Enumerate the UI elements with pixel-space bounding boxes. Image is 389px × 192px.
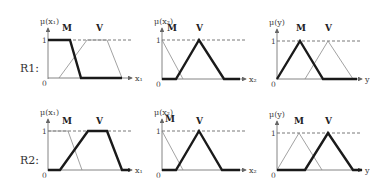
y-axis-label: μ(x₁) <box>40 17 59 26</box>
set-label-m: M <box>296 23 306 33</box>
rule-label: R1: <box>20 62 39 75</box>
membership-curve-v <box>48 131 130 170</box>
x-axis-label: y <box>364 75 370 84</box>
membership-curve-m <box>277 41 357 79</box>
set-label-v: V <box>95 23 104 33</box>
set-label-v: V <box>95 116 104 126</box>
tick-one: 1 <box>42 36 47 45</box>
set-label-m: M <box>62 23 72 33</box>
membership-curve-v <box>59 40 122 78</box>
panels: μ(x₁)x₁10MVμ(x₂)x₂10MVμ(y)y10MVμ(x₁)x₁10… <box>40 17 370 180</box>
set-label-m: M <box>294 116 304 126</box>
tick-zero: 0 <box>271 80 276 89</box>
set-label-v: V <box>324 116 333 126</box>
set-label-v: V <box>324 23 333 33</box>
membership-curve-v <box>162 131 240 170</box>
x-axis-label: y <box>364 166 370 175</box>
tick-zero: 0 <box>42 79 47 88</box>
tick-one: 1 <box>271 37 276 46</box>
x-axis-label: x₂ <box>249 166 257 175</box>
tick-one: 1 <box>156 36 161 45</box>
set-label-v: V <box>195 116 204 126</box>
panel-r1-y: μ(y)y10MV <box>269 18 370 89</box>
tick-one: 1 <box>271 129 276 138</box>
membership-curve-v <box>162 40 240 79</box>
x-axis-label: x₁ <box>135 74 143 83</box>
membership-curve-m <box>48 40 122 78</box>
x-axis-label: x₁ <box>135 166 143 175</box>
tick-one: 1 <box>156 127 161 136</box>
rule-label: R2: <box>20 154 39 167</box>
y-axis-label: μ(x₁) <box>40 108 59 117</box>
tick-zero: 0 <box>156 171 161 180</box>
rule-labels: R1:R2: <box>20 62 39 167</box>
set-label-v: V <box>195 23 204 33</box>
y-axis-label: μ(y) <box>269 110 285 119</box>
tick-one: 1 <box>42 127 47 136</box>
tick-zero: 0 <box>271 171 276 180</box>
panel-r2-x2: μ(x₂)x₂10MV <box>154 108 257 180</box>
panel-r2-y: μ(y)y10MV <box>269 110 370 180</box>
set-label-m: M <box>167 23 177 33</box>
fuzzy-rules-diagram: R1:R2: μ(x₁)x₁10MVμ(x₂)x₂10MVμ(y)y10MVμ(… <box>0 0 389 192</box>
set-label-m: M <box>62 116 72 126</box>
y-axis-label: μ(y) <box>269 18 285 27</box>
tick-zero: 0 <box>42 171 47 180</box>
panel-r2-x1: μ(x₁)x₁10MV <box>40 108 143 180</box>
x-axis-label: x₂ <box>249 75 257 84</box>
panel-r1-x2: μ(x₂)x₂10MV <box>154 17 257 89</box>
panel-r1-x1: μ(x₁)x₁10MV <box>40 17 143 88</box>
membership-function-grid: R1:R2: μ(x₁)x₁10MVμ(x₂)x₂10MVμ(y)y10MVμ(… <box>0 0 389 192</box>
tick-zero: 0 <box>156 80 161 89</box>
membership-curve-v <box>277 133 362 170</box>
set-label-m: M <box>165 114 175 124</box>
